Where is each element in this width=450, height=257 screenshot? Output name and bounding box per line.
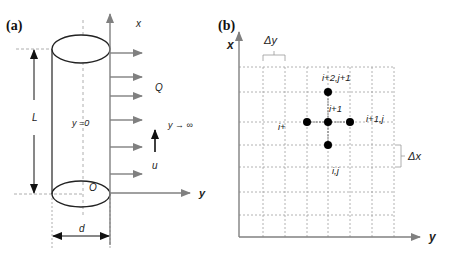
length-label: L <box>32 112 38 123</box>
node-bottom-label: i,j <box>332 165 340 176</box>
heat-flux-label: Q <box>155 82 163 93</box>
delta-x-bracket <box>395 145 405 167</box>
diameter-label: d <box>79 223 85 234</box>
node-top <box>324 88 332 96</box>
y-axis-label: y <box>198 187 206 199</box>
surface-label: y =0 <box>71 118 89 128</box>
mesh-grid <box>239 67 395 237</box>
delta-y-label: Δy <box>263 34 278 46</box>
origin-label: O <box>89 182 97 193</box>
figure-canvas: (a) <box>0 0 450 257</box>
b-x-axis-label: x <box>226 38 235 52</box>
node-right-label: i+1,j <box>366 113 385 124</box>
node-bottom <box>324 141 332 149</box>
velocity-label: u <box>152 160 158 171</box>
panel-b: (b) <box>218 18 437 244</box>
node-center-label: i+1 <box>329 103 342 114</box>
node-left-label: i+ <box>278 121 286 132</box>
cylinder-top-ellipse <box>52 35 110 63</box>
x-axis-label: x <box>135 18 142 29</box>
b-y-axis-label: y <box>428 230 437 244</box>
delta-x-label: Δx <box>407 150 421 162</box>
far-field-label: y → ∞ <box>167 120 193 130</box>
node-center <box>324 118 332 126</box>
panel-a: (a) <box>6 14 206 248</box>
panel-a-tag: (a) <box>6 18 23 34</box>
stencil-nodes <box>303 88 354 149</box>
heat-flux-arrows <box>110 53 142 174</box>
delta-y-bracket <box>263 51 285 61</box>
node-left <box>303 118 311 126</box>
panel-b-tag: (b) <box>218 18 235 34</box>
node-top-label: i+2,j+1 <box>322 72 351 83</box>
node-right <box>346 118 354 126</box>
